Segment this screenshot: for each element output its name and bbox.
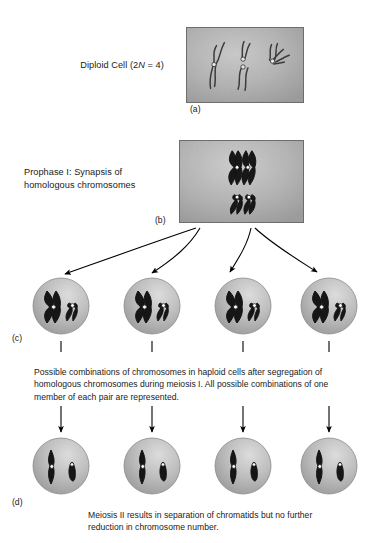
- meiosis-one-caption: Possible combinations of chromosomes in …: [34, 366, 334, 403]
- panel-tag-d: (d): [12, 497, 23, 507]
- meiosis-two-cell-4-graphic: [300, 437, 358, 495]
- prophase-one-label: Prophase I: Synapsis of homologous chrom…: [24, 166, 174, 191]
- haploid-cell-1: [32, 277, 90, 335]
- meiosis-two-cell-2: [123, 437, 181, 495]
- haploid-cell-1-graphic: [32, 277, 90, 335]
- meiosis-figure: Diploid Cell (2N = 4) Prophase I: Synaps…: [0, 0, 378, 543]
- cell-to-caption-ticks: [61, 341, 329, 352]
- diploid-label-suffix: = 4): [145, 60, 164, 70]
- meiosis-two-arrows: [61, 406, 329, 432]
- micrograph-a-graphic: [187, 28, 303, 102]
- meiosis-two-cell-3-graphic: [214, 437, 272, 495]
- panel-tag-b: (b): [155, 215, 166, 225]
- diploid-cell-label: Diploid Cell (2N = 4): [52, 59, 192, 72]
- diploid-label-italic-n: N: [138, 60, 145, 70]
- meiosis-two-cell-2-graphic: [123, 437, 181, 495]
- diploid-cell-micrograph: [186, 27, 304, 103]
- micrograph-b-graphic: [180, 141, 303, 222]
- haploid-cell-3: [214, 277, 272, 335]
- diploid-label-prefix: Diploid Cell (2: [80, 60, 138, 70]
- meiosis-two-cell-1-graphic: [32, 437, 90, 495]
- panel-tag-a: (a): [190, 104, 201, 114]
- panel-tag-c: (c): [12, 333, 22, 343]
- haploid-cell-4-graphic: [300, 277, 358, 335]
- meiosis-two-cell-3: [214, 437, 272, 495]
- prophase-one-micrograph: [179, 140, 304, 223]
- meiosis-two-cell-4: [300, 437, 358, 495]
- meiosis-two-cell-1: [32, 437, 90, 495]
- haploid-cell-4: [300, 277, 358, 335]
- meiosis-two-caption: Meiosis II results in separation of chro…: [88, 509, 338, 534]
- haploid-cell-2: [123, 277, 181, 335]
- haploid-cell-3-graphic: [214, 277, 272, 335]
- segregation-arrows: [65, 228, 317, 274]
- haploid-cell-2-graphic: [123, 277, 181, 335]
